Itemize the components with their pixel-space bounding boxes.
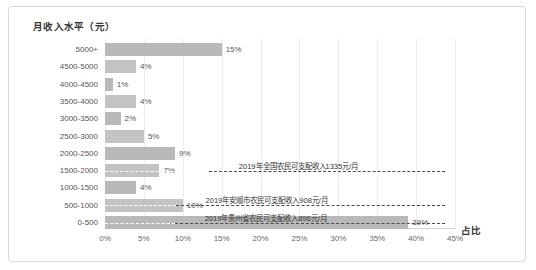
category-label: 500-1000 <box>64 199 98 212</box>
category-label: 4000-4500 <box>60 78 98 91</box>
bar-row: 5000+15% <box>105 40 455 59</box>
category-label: 2000-2500 <box>60 147 98 160</box>
bar[interactable] <box>105 130 144 143</box>
bar-value-label: 9% <box>179 147 191 160</box>
annotation-line-extension <box>175 223 445 224</box>
bar-row: 4000-45001% <box>105 75 455 94</box>
x-axis-title: 占比 <box>461 223 481 237</box>
bar-row: 2500-30005% <box>105 127 455 146</box>
chart-card: 月收入水平（元） 0%5%10%15%20%25%30%35%40%45%500… <box>8 6 526 262</box>
x-gridline <box>455 39 456 229</box>
annotation-line <box>105 205 176 206</box>
bar-row: 3000-35002% <box>105 109 455 128</box>
bar-value-label: 5% <box>148 130 160 143</box>
annotation-line <box>105 223 175 224</box>
category-label: 1000-1500 <box>60 181 98 194</box>
annotation-line-extension <box>176 205 445 206</box>
category-label: 0-500 <box>78 216 98 229</box>
bar-value-label: 4% <box>140 95 152 108</box>
x-tick-label: 20% <box>253 234 269 243</box>
category-label: 2500-3000 <box>60 130 98 143</box>
bar[interactable] <box>105 43 222 56</box>
category-label: 3500-4000 <box>60 95 98 108</box>
bar[interactable] <box>105 60 136 73</box>
x-tick-label: 35% <box>369 234 385 243</box>
bar[interactable] <box>105 112 121 125</box>
category-label: 5000+ <box>76 43 98 56</box>
category-label: 3000-3500 <box>60 112 98 125</box>
bar-value-label: 15% <box>226 43 242 56</box>
annotation-label: 2019年全国农民可支配收入1335元/月 <box>239 160 358 171</box>
annotation-line-extension <box>209 171 445 172</box>
x-tick-label: 30% <box>330 234 346 243</box>
annotation-label: 2019年贵州省农民可支配收入896元/月 <box>205 212 327 223</box>
x-tick-label: 40% <box>408 234 424 243</box>
bar[interactable] <box>105 95 136 108</box>
category-label: 4500-5000 <box>60 60 98 73</box>
bar-row: 4500-50004% <box>105 57 455 76</box>
bar-value-label: 1% <box>117 78 129 91</box>
bar[interactable] <box>105 181 136 194</box>
bar-row: 3500-40004% <box>105 92 455 111</box>
x-tick-label: 10% <box>175 234 191 243</box>
x-tick-label: 15% <box>214 234 230 243</box>
bar-value-label: 2% <box>125 112 137 125</box>
x-tick-label: 0% <box>99 234 111 243</box>
x-tick-label: 25% <box>291 234 307 243</box>
x-tick-label: 5% <box>138 234 150 243</box>
bar[interactable] <box>105 78 113 91</box>
category-label: 1500-2000 <box>60 164 98 177</box>
bar-value-label: 4% <box>140 60 152 73</box>
chart-title: 月收入水平（元） <box>33 19 115 33</box>
annotation-line <box>105 171 209 172</box>
annotation-label: 2019年安顺市农民可支配收入908元/月 <box>206 194 328 205</box>
bar-value-label: 4% <box>140 181 152 194</box>
plot-area: 0%5%10%15%20%25%30%35%40%45%5000+15%4500… <box>105 39 455 229</box>
bar[interactable] <box>105 147 175 160</box>
